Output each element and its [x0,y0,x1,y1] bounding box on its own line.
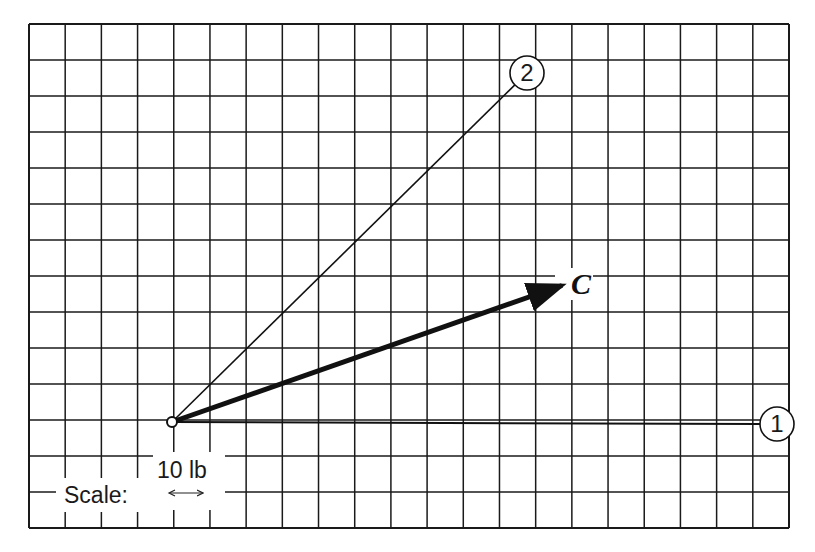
graph-paper-grid [29,24,789,528]
origin-point [167,417,177,427]
circled-label-2: 2 [510,56,544,90]
label-2-text: 2 [520,59,533,86]
circled-label-1: 1 [760,407,794,441]
scale-value-label: 10 lb [157,457,207,483]
line-1 [172,422,760,424]
vector-c-label: C [571,267,592,300]
label-1-text: 1 [770,410,783,437]
vector-diagram: 1 2 C Scale: 10 lb [0,0,815,552]
vector-c-arrow [172,286,562,423]
scale-label: Scale: [64,482,128,508]
